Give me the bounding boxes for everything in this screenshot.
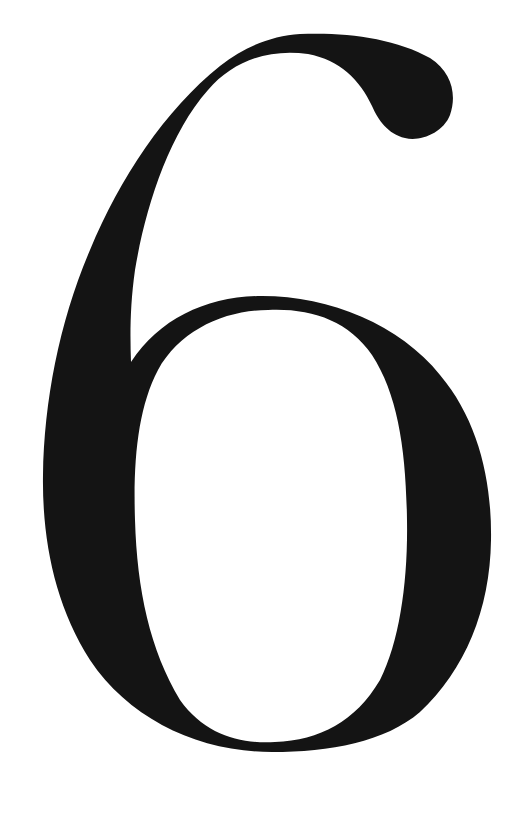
numeral-six-glyph [0,0,523,817]
numeral-six-shape [43,34,491,752]
